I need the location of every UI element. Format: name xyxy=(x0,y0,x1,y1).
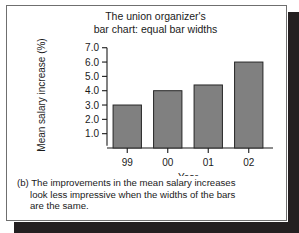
x-axis-tick-label: 99 xyxy=(122,157,134,168)
x-axis-tick-label: 01 xyxy=(203,157,215,168)
x-axis-title: Year xyxy=(178,172,199,176)
x-axis: 99000102 xyxy=(107,148,273,168)
y-axis: 1.02.03.04.05.06.07.0 xyxy=(85,42,107,145)
y-axis-title: Mean salary increase (%) xyxy=(36,38,47,151)
chart-title-line-2: bar chart: equal bar widths xyxy=(25,23,286,36)
bar-99 xyxy=(113,105,141,148)
y-axis-tick-label: 6.0 xyxy=(85,57,99,68)
chart-title: The union organizer's bar chart: equal b… xyxy=(7,10,286,35)
figure-shadow-right xyxy=(288,12,299,233)
figure-container: The union organizer's bar chart: equal b… xyxy=(0,0,299,233)
bar-chart-plot: 1.02.03.04.05.06.07.0 99000102 YearMean … xyxy=(7,36,286,176)
bar-chart-svg: 1.02.03.04.05.06.07.0 99000102 YearMean … xyxy=(7,36,286,176)
y-axis-tick-label: 4.0 xyxy=(85,85,99,96)
y-axis-tick-label: 2.0 xyxy=(85,114,99,125)
bar-01 xyxy=(194,85,222,148)
x-axis-tick-label: 02 xyxy=(243,157,255,168)
caption-label: (b) xyxy=(17,177,29,188)
y-axis-tick-label: 1.0 xyxy=(85,128,99,139)
figure-caption: (b) The improvements in the mean salary … xyxy=(17,177,278,212)
y-axis-tick-label: 3.0 xyxy=(85,100,99,111)
figure-panel: The union organizer's bar chart: equal b… xyxy=(6,5,287,221)
figure-shadow-bottom xyxy=(14,222,299,233)
caption-text-1: The improvements in the mean salary incr… xyxy=(31,177,235,188)
bar-02 xyxy=(235,62,263,148)
y-axis-tick-label: 5.0 xyxy=(85,71,99,82)
caption-line-3: are the same. xyxy=(17,200,278,212)
bar-series xyxy=(113,62,263,148)
caption-line-2: look less impressive when the widths of … xyxy=(17,189,278,201)
chart-title-line-1: The union organizer's xyxy=(25,10,286,23)
x-axis-tick-label: 00 xyxy=(162,157,174,168)
bar-00 xyxy=(154,91,182,148)
caption-line-1: (b) The improvements in the mean salary … xyxy=(17,177,278,189)
y-axis-tick-label: 7.0 xyxy=(85,42,99,53)
